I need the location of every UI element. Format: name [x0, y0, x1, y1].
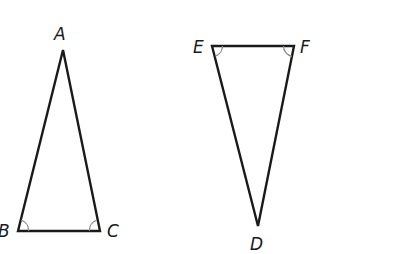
vertex-label-b: B	[0, 221, 10, 241]
diagram-canvas: A B C E F D	[0, 0, 405, 254]
vertex-label-f: F	[300, 37, 310, 57]
triangle-def-outline	[212, 46, 294, 226]
angle-mark-b	[21, 220, 28, 231]
vertex-label-d: D	[250, 234, 263, 254]
vertex-label-a: A	[53, 24, 66, 44]
angle-mark-c	[89, 220, 96, 231]
angle-mark-e	[215, 46, 222, 56]
vertex-label-c: C	[107, 221, 119, 241]
triangle-abc: A B C	[0, 24, 119, 241]
angle-mark-f	[284, 46, 292, 56]
vertex-label-e: E	[193, 37, 204, 57]
triangle-abc-outline	[18, 50, 100, 231]
triangle-def: E F D	[193, 37, 310, 254]
